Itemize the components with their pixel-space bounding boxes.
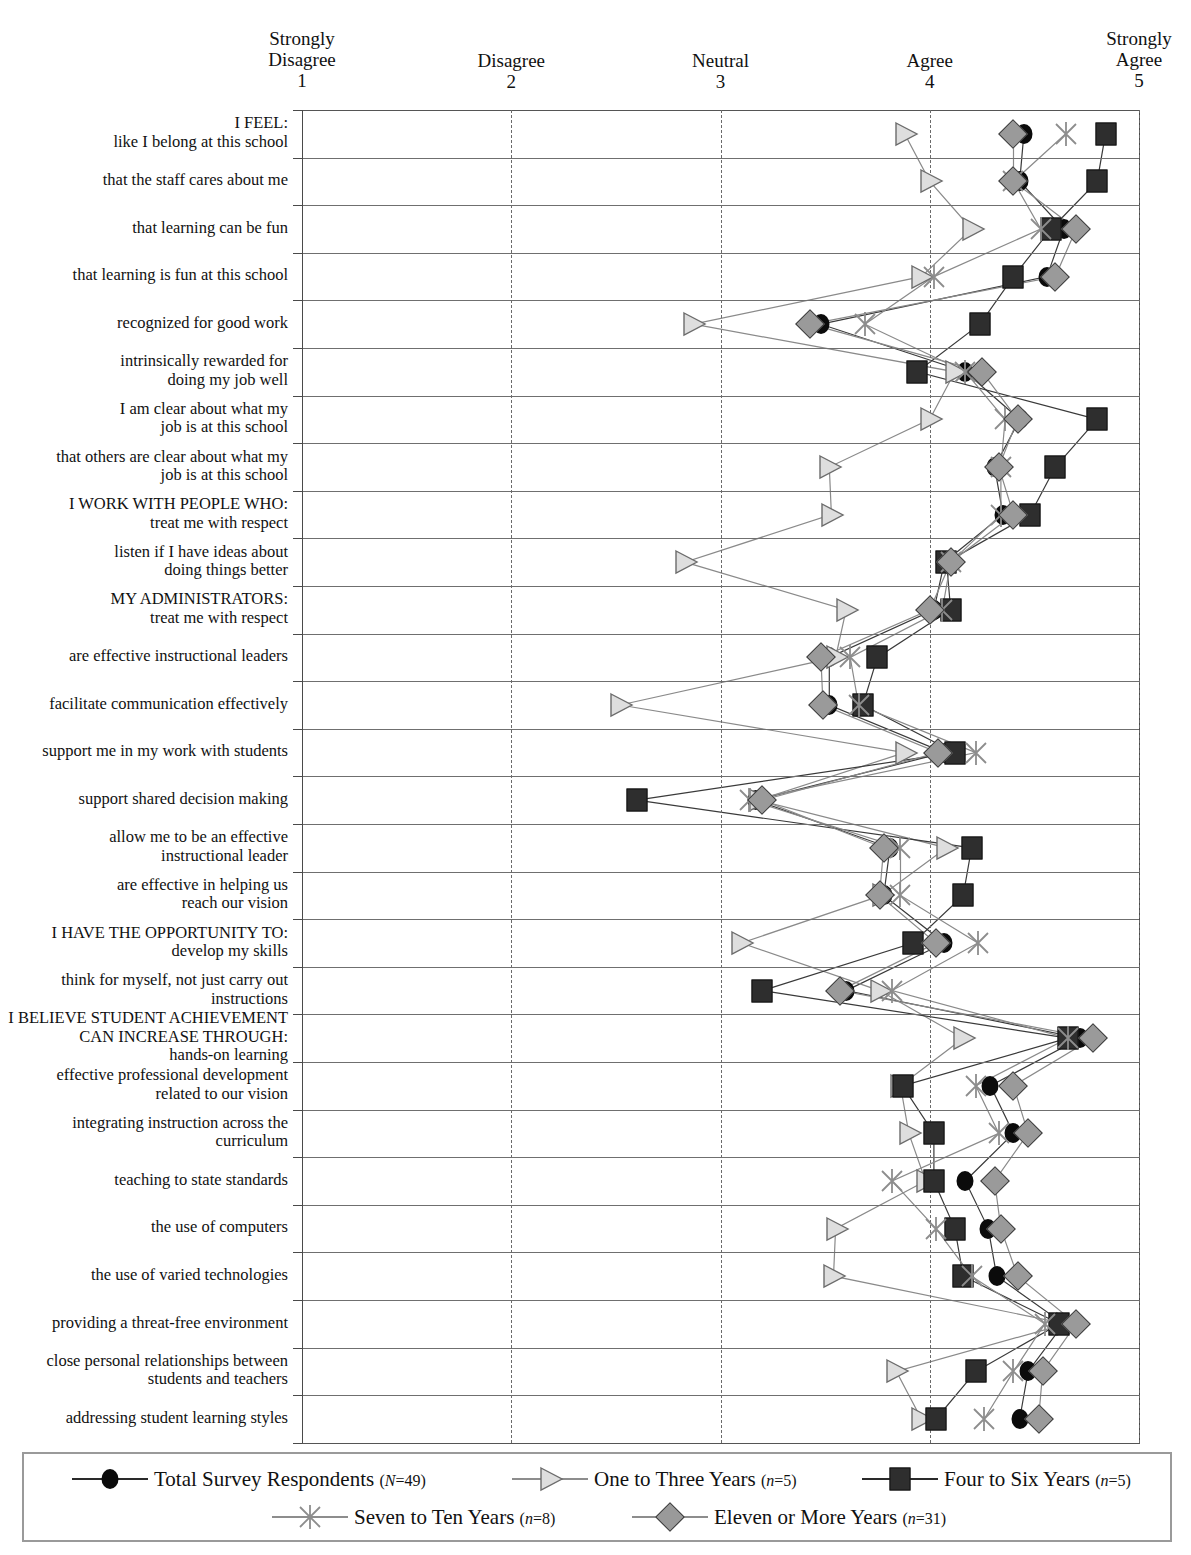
legend-item[interactable]: One to Three Years (n=5) [512, 1460, 797, 1498]
marker-triangle-icon [609, 692, 635, 718]
x-axis-tick-number: 4 [907, 71, 953, 92]
legend-series-name: Four to Six Years [944, 1467, 1095, 1491]
marker-square-icon [969, 313, 990, 336]
marker-square-icon [1087, 170, 1108, 193]
legend-swatch [72, 1467, 148, 1491]
marker-square-icon [867, 646, 888, 669]
marker-triangle-icon [835, 597, 861, 623]
marker-x-icon [959, 1263, 985, 1289]
marker-diamond-icon [825, 976, 855, 1006]
legend-swatch [272, 1505, 348, 1529]
legend-series-name: One to Three Years [594, 1467, 761, 1491]
legend-series-name: Total Survey Respondents [154, 1467, 379, 1491]
marker-diamond-icon [655, 1502, 685, 1532]
x-axis-tick-label: Strongly Disagree [268, 28, 336, 70]
marker-triangle-icon [935, 835, 961, 861]
x-axis-tick-2: Disagree2 [477, 50, 545, 92]
marker-x-icon [837, 644, 863, 670]
marker-diamond-icon [808, 690, 838, 720]
marker-square-icon [1003, 265, 1024, 288]
marker-triangle-icon [825, 1216, 851, 1242]
marker-triangle-icon [818, 454, 844, 480]
marker-diamond-icon [1024, 1404, 1054, 1434]
marker-square-icon [953, 884, 974, 907]
marker-x-icon [963, 740, 989, 766]
legend-item[interactable]: Eleven or More Years (n=31) [632, 1498, 946, 1536]
x-axis-header: Strongly Disagree1Disagree2Neutral3Agree… [0, 28, 1191, 106]
marker-triangle-icon [885, 1358, 911, 1384]
row-gridline [302, 1443, 1140, 1444]
marker-square-icon [965, 1360, 986, 1383]
marker-x-icon [846, 692, 872, 718]
legend-item[interactable]: Total Survey Respondents (N=49) [72, 1460, 426, 1498]
marker-triangle-icon [919, 168, 945, 194]
marker-x-icon [1028, 216, 1054, 242]
x-axis-tick-4: Agree4 [907, 50, 953, 92]
marker-triangle-icon [730, 930, 756, 956]
marker-layer [0, 108, 1191, 1433]
legend-swatch [632, 1505, 708, 1529]
marker-square-icon [961, 836, 982, 859]
marker-diamond-icon [1028, 1357, 1058, 1387]
legend-item[interactable]: Four to Six Years (n=5) [862, 1460, 1131, 1498]
marker-x-icon [971, 1406, 997, 1432]
marker-x-icon [921, 264, 947, 290]
marker-triangle-icon [682, 311, 708, 337]
marker-x-icon [963, 1073, 989, 1099]
marker-triangle-icon [898, 1120, 924, 1146]
legend-label: Four to Six Years (n=5) [944, 1467, 1131, 1492]
marker-x-icon [923, 1216, 949, 1242]
marker-diamond-icon [999, 1071, 1029, 1101]
legend-label: Eleven or More Years (n=31) [714, 1505, 946, 1530]
legend-label: Seven to Ten Years (n=8) [354, 1505, 555, 1530]
row-tick [293, 1443, 302, 1444]
marker-circle-icon [957, 1171, 974, 1191]
marker-square-icon [892, 1074, 913, 1097]
marker-x-icon [297, 1504, 323, 1530]
chart-legend: Total Survey Respondents (N=49)One to Th… [22, 1452, 1172, 1542]
marker-triangle-icon [961, 216, 987, 242]
marker-square-icon [752, 979, 773, 1002]
marker-triangle-icon [539, 1466, 565, 1492]
legend-series-count: (N=49) [379, 1472, 425, 1489]
marker-x-icon [1032, 1311, 1058, 1337]
marker-square-icon [1087, 408, 1108, 431]
x-axis-tick-number: 1 [268, 70, 336, 91]
marker-triangle-icon [674, 549, 700, 575]
marker-triangle-icon [894, 121, 920, 147]
legend-swatch [862, 1467, 938, 1491]
marker-x-icon [986, 1120, 1012, 1146]
marker-triangle-icon [919, 406, 945, 432]
marker-x-icon [1055, 1025, 1081, 1051]
marker-x-icon [852, 311, 878, 337]
marker-square-icon [1045, 456, 1066, 479]
x-axis-tick-number: 2 [477, 71, 545, 92]
legend-label: One to Three Years (n=5) [594, 1467, 797, 1492]
marker-triangle-icon [820, 502, 846, 528]
marker-square-icon [626, 789, 647, 812]
legend-series-count: (n=5) [761, 1472, 797, 1489]
marker-square-icon [923, 1122, 944, 1145]
x-axis-tick-label: Strongly Agree [1106, 28, 1171, 70]
marker-x-icon [879, 1168, 905, 1194]
x-axis-tick-1: Strongly Disagree1 [268, 28, 336, 91]
plot-area [0, 108, 1191, 1433]
legend-label: Total Survey Respondents (N=49) [154, 1467, 426, 1492]
x-axis-tick-label: Neutral [692, 50, 749, 71]
legend-item[interactable]: Seven to Ten Years (n=8) [272, 1498, 555, 1536]
marker-square-icon [890, 1468, 911, 1491]
legend-series-count: (n=8) [520, 1510, 556, 1527]
marker-x-icon [879, 978, 905, 1004]
marker-square-icon [923, 1170, 944, 1193]
x-axis-tick-number: 3 [692, 71, 749, 92]
marker-square-icon [1095, 122, 1116, 145]
marker-diamond-icon [980, 1166, 1010, 1196]
x-axis-tick-label: Disagree [477, 50, 545, 71]
x-axis-tick-number: 5 [1106, 70, 1171, 91]
marker-diamond-icon [1003, 1261, 1033, 1291]
legend-series-count: (n=31) [902, 1510, 946, 1527]
marker-x-icon [1000, 1358, 1026, 1384]
marker-square-icon [907, 360, 928, 383]
marker-x-icon [1053, 121, 1079, 147]
marker-triangle-icon [822, 1263, 848, 1289]
